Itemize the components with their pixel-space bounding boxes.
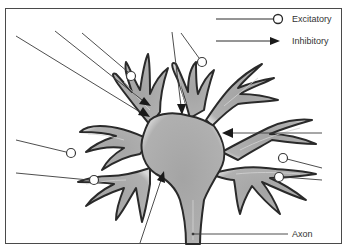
soma bbox=[142, 113, 225, 244]
excitatory-synapse-3 bbox=[16, 140, 76, 158]
excitatory-synapse-2 bbox=[181, 33, 207, 67]
neuron-cell bbox=[78, 54, 316, 244]
excitatory-synapse-5 bbox=[279, 154, 323, 169]
legend-excitatory-label: Excitatory bbox=[292, 14, 332, 24]
dendrite-left bbox=[80, 126, 150, 170]
dendrite-lower-left bbox=[78, 168, 150, 222]
legend-excitatory-symbol bbox=[216, 15, 283, 24]
axon-label: Axon bbox=[292, 229, 313, 239]
legend-inhibitory-label: Inhibitory bbox=[292, 36, 329, 46]
dendrite-upper-right bbox=[206, 64, 278, 126]
dendrite-upper-middle bbox=[172, 62, 214, 118]
legend bbox=[216, 15, 283, 46]
dendrite-right bbox=[222, 119, 316, 160]
legend-inhibitory-symbol bbox=[216, 37, 280, 45]
dendrite-lower-right bbox=[216, 167, 316, 214]
axon-leader bbox=[192, 233, 288, 235]
